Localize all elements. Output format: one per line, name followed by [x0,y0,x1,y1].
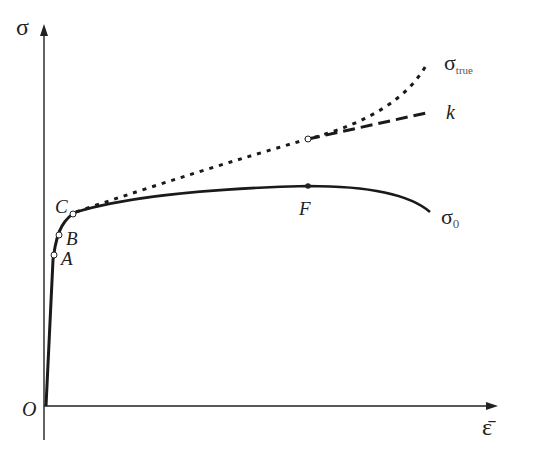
point-c-marker [70,211,76,217]
point-a-marker [51,252,57,258]
nominal-stress-curve [76,186,430,212]
point-b-marker [56,232,62,238]
k-label: k [446,101,455,124]
nominal-stress-subscript: 0 [453,216,460,231]
necking-point-marker [305,136,311,142]
x-axis-arrow-icon [486,402,498,410]
origin-label: O [22,398,36,421]
point-f-label: F [299,198,311,220]
point-a-label: A [61,248,73,270]
y-axis-label: σ [16,14,29,41]
true-stress-subscript: true [456,64,473,76]
point-b-label: B [66,228,78,250]
y-axis-arrow-icon [40,24,48,36]
nominal-stress-label: σ0 [441,204,459,232]
point-f-marker [305,183,311,189]
x-axis-label: ε̄ [482,414,492,441]
k-line [308,113,426,139]
true-stress-symbol: σ [444,50,456,75]
point-c-label: C [55,196,68,218]
nominal-stress-symbol: σ [441,204,453,229]
true-stress-label: σtrue [444,50,473,76]
